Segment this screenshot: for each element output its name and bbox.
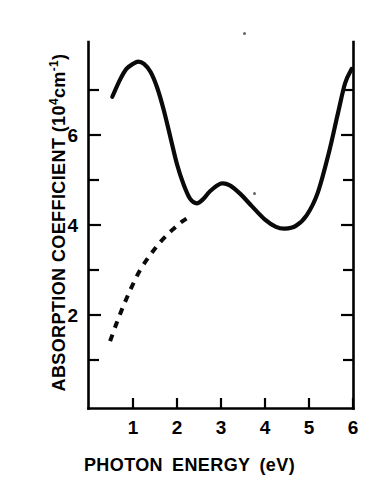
data-curve-absorption-solid — [112, 62, 351, 229]
x-axis-ticks — [133, 398, 353, 409]
y-axis-title-unit: cm — [49, 71, 69, 98]
data-curve-extrapolated-dashed — [110, 215, 192, 341]
x-tick-label-2: 2 — [172, 417, 183, 438]
x-tick-label-3: 3 — [216, 417, 227, 438]
x-tick-label-5: 5 — [304, 417, 315, 438]
y-axis-title-text: ABSORPTION COEFFICIENT (10 — [49, 105, 69, 391]
x-axis-title-main: PHOTON — [84, 455, 163, 475]
x-tick-label-4: 4 — [260, 417, 271, 438]
y-axis-title-exponent: 4 — [47, 98, 61, 105]
x-tick-label-6: 6 — [348, 417, 359, 438]
y-axis-title: ABSORPTION COEFFICIENT (104cm-1) — [49, 62, 70, 392]
scan-speck — [243, 32, 246, 35]
x-tick-label-1: 1 — [128, 417, 139, 438]
x-axis-title: PHOTONENERGY(eV) — [0, 455, 379, 476]
y-axis-title-unit-exponent: -1 — [47, 60, 61, 71]
absorption-spectrum-figure: 2 4 6 1 2 3 4 5 6 ABSORPTION COEFFICIENT… — [0, 0, 379, 496]
y-axis-title-close: ) — [49, 53, 69, 59]
y-axis-ticks-right — [341, 90, 354, 360]
y-axis-ticks-left — [89, 90, 102, 360]
x-axis-title-unit: (eV) — [259, 455, 295, 475]
x-axis-title-second: ENERGY — [172, 455, 250, 475]
scan-speck — [253, 192, 256, 195]
